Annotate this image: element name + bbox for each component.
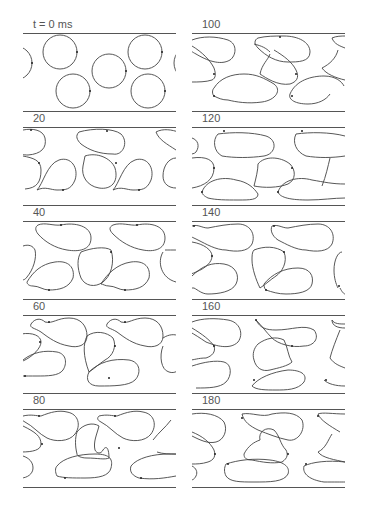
panel-label: 160 (202, 300, 220, 313)
panel-label: 120 (202, 112, 220, 125)
panel-t80: 80 (23, 394, 176, 488)
channel-wall-bottom (192, 487, 345, 488)
cells-plot (192, 34, 345, 111)
cells-plot (23, 316, 176, 393)
panel-t180: 180 (192, 394, 345, 488)
cells-plot (23, 34, 176, 111)
panel-t160: 160 (192, 300, 345, 394)
cells-plot (192, 316, 345, 393)
panel-t140: 140 (192, 206, 345, 300)
panel-label: 60 (33, 300, 45, 313)
cells-plot (192, 222, 345, 299)
panel-t120: 120 (192, 112, 345, 206)
cells-plot (192, 410, 345, 487)
panel-label: 180 (202, 394, 220, 407)
cells-plot (23, 410, 176, 487)
panel-t20: 20 (23, 112, 176, 206)
cells-plot (192, 128, 345, 205)
panel-t40: 40 (23, 206, 176, 300)
panel-label: t = 0 ms (33, 18, 72, 31)
panel-label: 80 (33, 394, 45, 407)
channel-wall-bottom (23, 487, 176, 488)
panel-t0: t = 0 ms (23, 18, 176, 112)
panel-label: 20 (33, 112, 45, 125)
panel-t60: 60 (23, 300, 176, 394)
panel-t100: 100 (192, 18, 345, 112)
panel-label: 140 (202, 206, 220, 219)
panel-label: 40 (33, 206, 45, 219)
cell-deformation-figure: t = 0 ms 20 (0, 0, 365, 507)
cells-plot (23, 128, 176, 205)
panel-label: 100 (202, 18, 220, 31)
cells-plot (23, 222, 176, 299)
